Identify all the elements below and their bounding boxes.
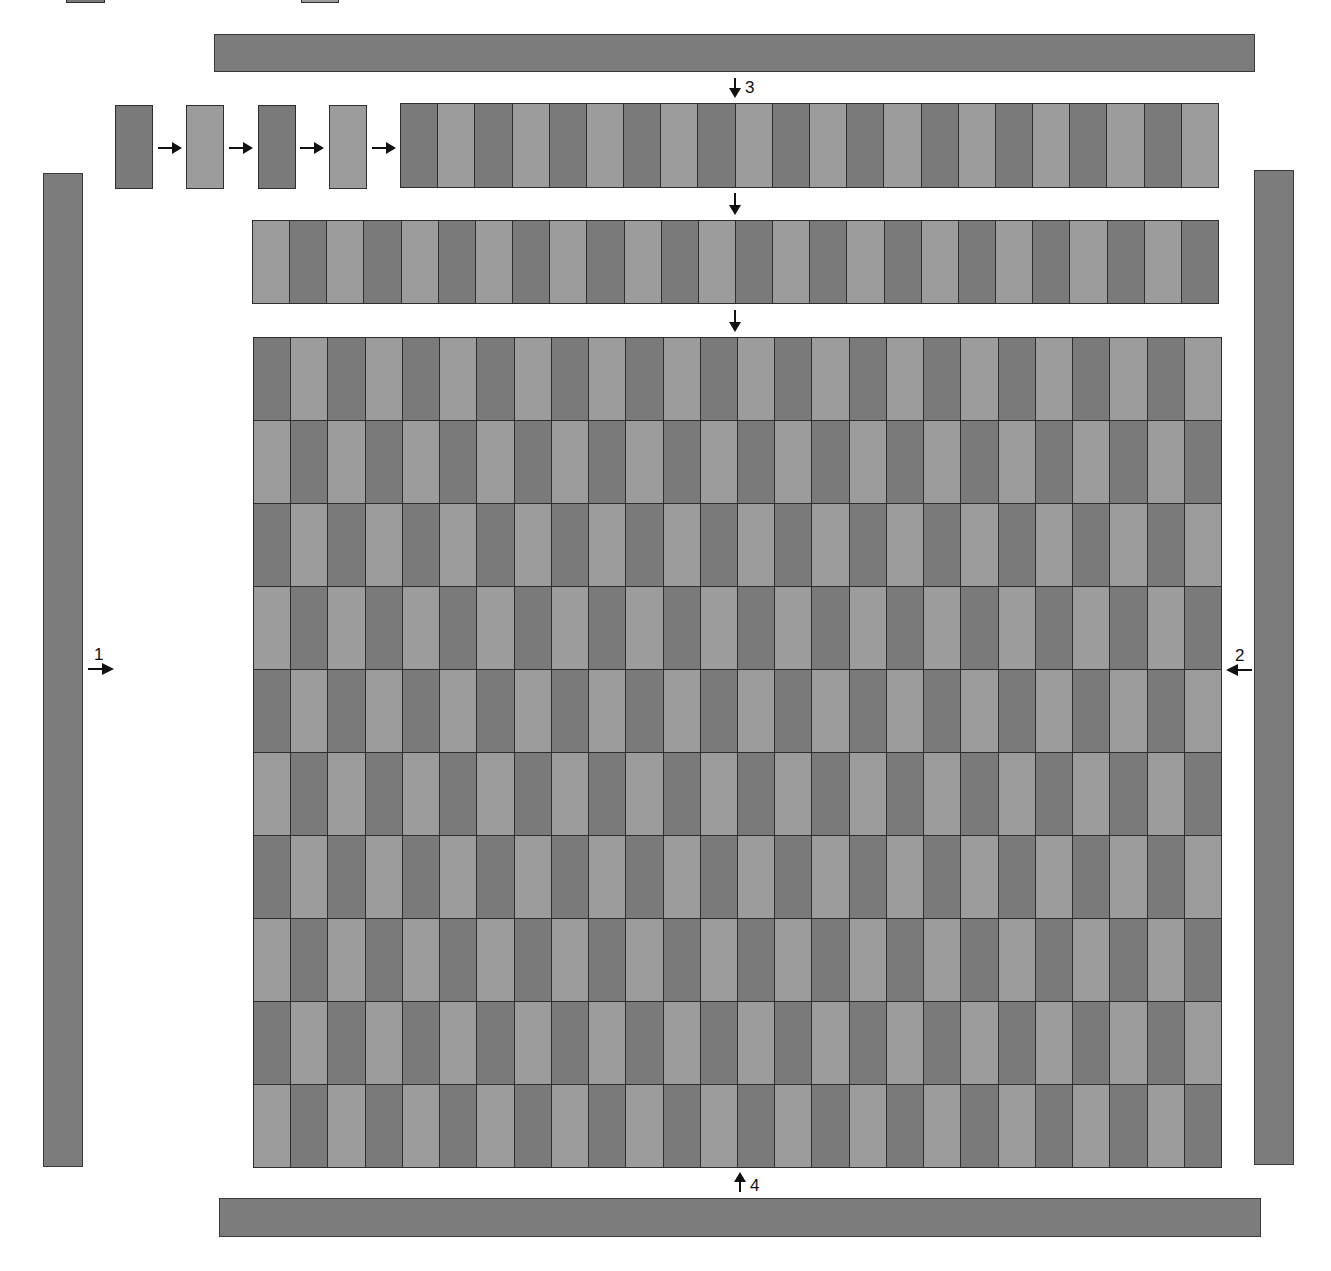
- strip-cell: [1032, 103, 1070, 188]
- grid-cell: [1072, 669, 1110, 753]
- strip-cell: [474, 103, 512, 188]
- grid-cell: [253, 669, 291, 753]
- grid-cell: [439, 835, 477, 919]
- strip-cell: [1144, 220, 1182, 304]
- grid-cell: [253, 586, 291, 670]
- grid-cell: [551, 918, 589, 1002]
- strip-cell: [883, 103, 921, 188]
- grid-cell: [365, 337, 403, 421]
- strip-cell: [252, 220, 290, 304]
- strip-cell: [438, 220, 476, 304]
- grid-cell: [327, 1001, 365, 1085]
- grid-cell: [849, 420, 887, 504]
- grid-cell: [253, 420, 291, 504]
- grid-cell: [514, 1084, 552, 1168]
- grid-cell: [327, 752, 365, 836]
- grid-cell: [1184, 503, 1222, 587]
- grid-cell: [439, 503, 477, 587]
- grid-cell: [1184, 337, 1222, 421]
- grid-cell: [290, 503, 328, 587]
- grid-cell: [960, 752, 998, 836]
- single-strip: [329, 105, 367, 189]
- strip-cell: [698, 220, 736, 304]
- grid-cell: [290, 752, 328, 836]
- grid-cell: [663, 835, 701, 919]
- grid-cell: [700, 918, 738, 1002]
- partial-strip: [301, 0, 339, 3]
- strip-cell: [363, 220, 401, 304]
- grid-cell: [849, 1001, 887, 1085]
- grid-cell: [253, 1084, 291, 1168]
- grid-cell: [439, 337, 477, 421]
- grid-cell: [663, 669, 701, 753]
- grid-cell: [290, 669, 328, 753]
- strip-cell: [586, 103, 624, 188]
- grid-cell: [998, 1084, 1036, 1168]
- strip-cell: [995, 103, 1033, 188]
- grid-cell: [253, 337, 291, 421]
- grid-cell: [365, 503, 403, 587]
- grid-cell: [1109, 918, 1147, 1002]
- grid-cell: [476, 752, 514, 836]
- strip-cell: [697, 103, 735, 188]
- grid-cell: [476, 669, 514, 753]
- grid-cell: [960, 1084, 998, 1168]
- strip-cell: [735, 220, 773, 304]
- grid-cell: [1109, 586, 1147, 670]
- grid-cell: [774, 586, 812, 670]
- grid-cell: [886, 669, 924, 753]
- grid-cell: [402, 503, 440, 587]
- grid-cell: [625, 669, 663, 753]
- grid-cell: [365, 918, 403, 1002]
- arrow-label-2: 2: [1235, 647, 1244, 664]
- strip-cell: [661, 220, 699, 304]
- strip-cell: [586, 220, 624, 304]
- strip-cell: [549, 103, 587, 188]
- grid-cell: [774, 337, 812, 421]
- grid-cell: [514, 1001, 552, 1085]
- grid-cell: [551, 669, 589, 753]
- strip-cell: [958, 103, 996, 188]
- grid-cell: [439, 669, 477, 753]
- grid-cell: [253, 752, 291, 836]
- woven-grid: [253, 337, 1221, 1167]
- grid-cell: [998, 337, 1036, 421]
- arrow-label-1: 1: [94, 646, 103, 663]
- grid-cell: [700, 420, 738, 504]
- grid-cell: [551, 835, 589, 919]
- grid-cell: [998, 503, 1036, 587]
- grid-cell: [886, 1001, 924, 1085]
- grid-cell: [551, 586, 589, 670]
- grid-cell: [1184, 420, 1222, 504]
- grid-cell: [849, 835, 887, 919]
- grid-cell: [327, 669, 365, 753]
- strip-cell: [400, 103, 438, 188]
- grid-cell: [327, 1084, 365, 1168]
- grid-cell: [923, 669, 961, 753]
- grid-cell: [1035, 503, 1073, 587]
- strip-cell: [1107, 220, 1145, 304]
- grid-cell: [1109, 503, 1147, 587]
- arrow-right-icon: [300, 142, 324, 154]
- strip-cell: [846, 220, 884, 304]
- grid-cell: [514, 918, 552, 1002]
- grid-cell: [1072, 1001, 1110, 1085]
- grid-cell: [625, 752, 663, 836]
- strip-cell: [624, 220, 662, 304]
- grid-cell: [476, 586, 514, 670]
- strip-cell: [660, 103, 698, 188]
- grid-cell: [1072, 503, 1110, 587]
- grid-cell: [774, 752, 812, 836]
- grid-cell: [253, 835, 291, 919]
- arrow-right-icon: [158, 142, 182, 154]
- woven-row-1: [400, 103, 1218, 188]
- strip-cell: [289, 220, 327, 304]
- grid-cell: [514, 420, 552, 504]
- grid-cell: [1109, 752, 1147, 836]
- grid-cell: [737, 337, 775, 421]
- grid-cell: [365, 1084, 403, 1168]
- grid-cell: [1035, 1084, 1073, 1168]
- grid-cell: [960, 503, 998, 587]
- grid-cell: [774, 1001, 812, 1085]
- grid-cell: [960, 337, 998, 421]
